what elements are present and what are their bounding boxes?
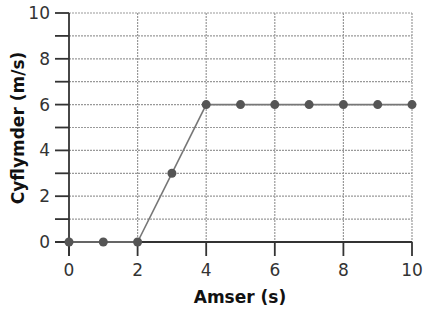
y-tick-label: 6 — [39, 95, 50, 115]
y-tick-label: 10 — [28, 3, 50, 23]
y-tick-label: 2 — [39, 186, 50, 206]
grid — [69, 13, 412, 242]
x-tick-label: 10 — [401, 260, 423, 280]
data-point — [270, 100, 279, 109]
data-point — [236, 100, 245, 109]
data-point — [339, 100, 348, 109]
y-tick-label: 8 — [39, 49, 50, 69]
data-point — [408, 100, 417, 109]
y-axis-title: Cyflymder (m/s) — [8, 52, 28, 205]
x-axis-title: Amser (s) — [194, 287, 286, 307]
velocity-time-chart: 02468100246810 Amser (s) Cyflymder (m/s) — [0, 0, 424, 319]
data-point — [373, 100, 382, 109]
y-tick-label: 4 — [39, 140, 50, 160]
tick-labels: 02468100246810 — [28, 3, 422, 280]
y-tick-label: 0 — [39, 232, 50, 252]
data-point — [99, 238, 108, 247]
data-point — [133, 238, 142, 247]
data-point — [167, 169, 176, 178]
data-point — [65, 238, 74, 247]
data-point — [202, 100, 211, 109]
x-tick-label: 0 — [64, 260, 75, 280]
x-tick-label: 4 — [201, 260, 212, 280]
x-tick-label: 2 — [132, 260, 143, 280]
data-point — [305, 100, 314, 109]
x-tick-label: 6 — [269, 260, 280, 280]
x-tick-label: 8 — [338, 260, 349, 280]
